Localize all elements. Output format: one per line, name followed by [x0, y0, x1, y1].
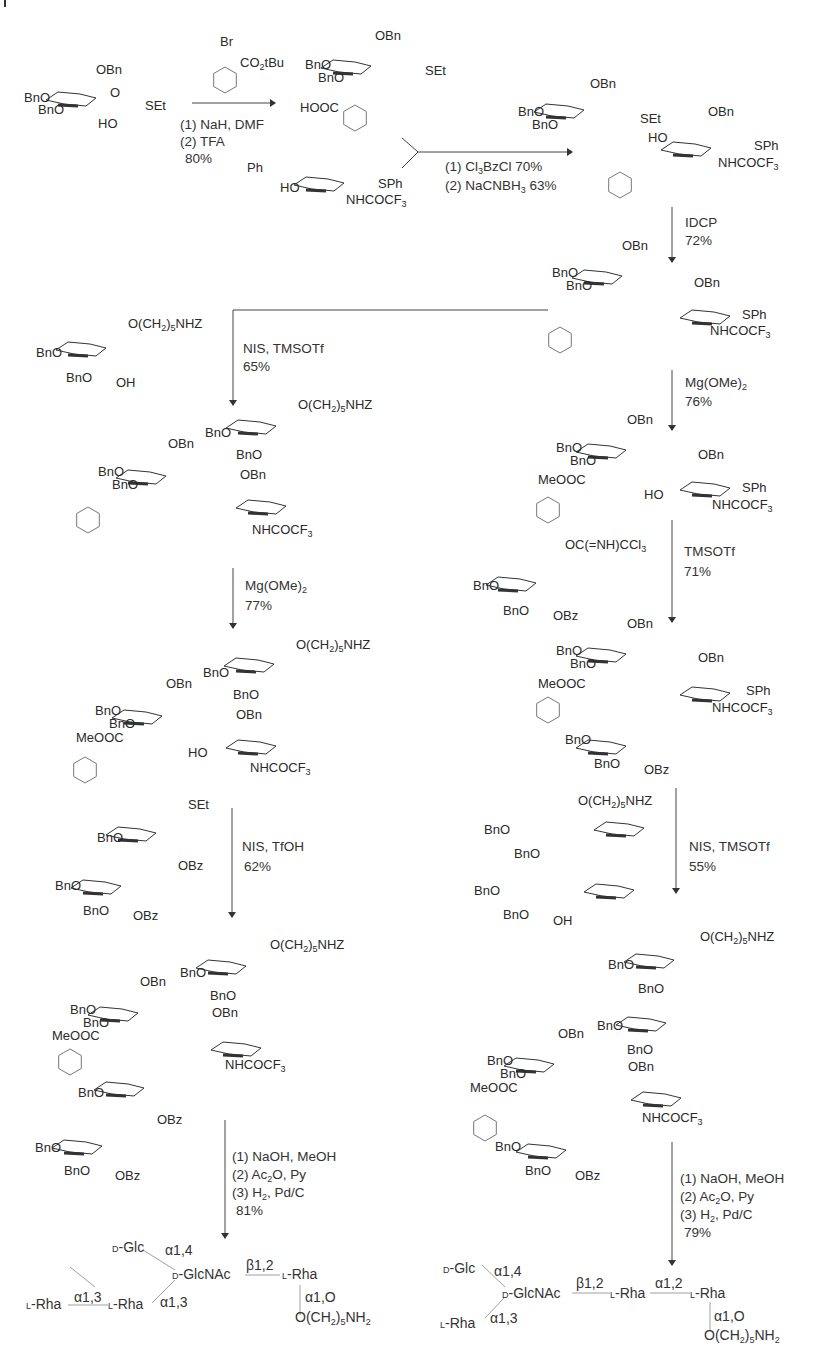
label-obn: OBn: [694, 275, 720, 290]
ring-bold-bond: [64, 1153, 84, 1154]
label-nhcocf3: NHCOCF3: [642, 1110, 703, 1125]
sugar-ring: [226, 420, 276, 434]
step5-right-yield: 71%: [684, 563, 711, 580]
glycan-left-link-a1o: α1,O: [305, 1290, 336, 1305]
label-sph: SPh: [742, 480, 767, 495]
label-obz: OBz: [553, 608, 578, 623]
label-linker: O(CH2)5NHZ: [296, 637, 370, 652]
final-left-yield: 81%: [236, 1202, 263, 1219]
benzene-ring: [59, 1049, 82, 1075]
ring-bold-bond: [643, 1105, 663, 1106]
label-obn: OBn: [627, 412, 653, 427]
label-bno: BnO: [236, 447, 262, 462]
sugar-ring: [594, 822, 644, 836]
label-nhcocf3: NHCOCF3: [252, 522, 313, 537]
glycan-left-d-glc: D-Glc: [112, 1240, 144, 1257]
glycan-right-link-b12: β1,2: [576, 1276, 604, 1291]
glycan-left-l-rha-b: L-Rha: [108, 1297, 143, 1314]
label-bno: BnO: [638, 981, 664, 996]
glycan-right-link-a1o: α1,O: [714, 1309, 745, 1324]
label-bno: BnO: [203, 665, 229, 680]
sugar-ring: [680, 310, 730, 324]
label-obn: OBn: [708, 104, 734, 119]
glycan-right-d-glcnac: D-GlcNAc: [502, 1286, 561, 1303]
label-obn: OBn: [375, 28, 401, 43]
label-set: SEt: [188, 797, 209, 812]
ring-bold-bond: [223, 1055, 243, 1056]
label-bno: BnO: [210, 988, 236, 1003]
label-bno: BnO: [503, 907, 529, 922]
label-bno: BnO: [594, 756, 620, 771]
label-meooc: MeOOC: [538, 472, 586, 487]
label-bno: BnO: [514, 846, 540, 861]
glycan-right-l-rha-b: L-Rha: [690, 1286, 725, 1303]
step1-line1: (1) NaH, DMF: [180, 116, 264, 133]
sugar-ring: [56, 342, 106, 356]
label-bno: BnO: [318, 70, 344, 85]
ring-bold-bond: [498, 590, 518, 591]
sugar-ring: [294, 177, 344, 191]
label-bno: BnO: [35, 1140, 61, 1155]
label-nhcocf3: NHCOCF3: [712, 700, 773, 715]
glycan-left-link-a13-a: α1,3: [74, 1290, 102, 1305]
step5-right-line1: TMSOTf: [684, 543, 735, 560]
label-linker: O(CH2)5NHZ: [270, 937, 344, 952]
sugar-ring: [236, 500, 286, 514]
glycan-left-linker: O(CH2)5NH2: [295, 1310, 371, 1325]
label-obn: OBn: [628, 1059, 654, 1074]
label-bno: BnO: [627, 1042, 653, 1057]
label-bno: BnO: [500, 1066, 526, 1081]
label-bno: BnO: [97, 830, 123, 845]
label-linker: O(CH2)5NHZ: [700, 929, 774, 944]
label-obz: OBz: [115, 1168, 140, 1183]
step4-right-yield: 76%: [685, 393, 712, 410]
label-nhcocf3: NHCOCF3: [225, 1057, 286, 1072]
step6-left-yield: 62%: [244, 858, 271, 875]
final-left-line3: (3) H2, Pd/C: [232, 1184, 305, 1201]
label-linker: O(CH2)5NHZ: [298, 397, 372, 412]
ring-bold-bond: [528, 1157, 548, 1158]
label-bno: BnO: [38, 102, 64, 117]
label-bno: BnO: [109, 716, 135, 731]
ring-bold-bond: [238, 753, 258, 754]
step1-yield: 80%: [185, 150, 212, 167]
glycan-right-linker: O(CH2)5NH2: [704, 1328, 780, 1343]
glycan-right-link-a12: α1,2: [655, 1276, 683, 1291]
label-bno: BnO: [64, 1163, 90, 1178]
label-obz: OBz: [644, 762, 669, 777]
glycan-left-l-rha-c: L-Rha: [26, 1297, 61, 1314]
sugar-ring: [584, 884, 634, 898]
label-bno: BnO: [473, 578, 499, 593]
final-right-yield: 79%: [684, 1224, 711, 1241]
final-right-line1: (1) NaOH, MeOH: [680, 1170, 784, 1187]
ring-bold-bond: [692, 323, 712, 324]
label-bno: BnO: [112, 477, 138, 492]
bond-right-glc-glcnac: [70, 1267, 95, 1287]
final-left-line2: (2) Ac2O, Py: [232, 1166, 306, 1183]
label-obn: OBn: [166, 676, 192, 691]
glycan-left-l-rha-a: L-Rha: [282, 1267, 317, 1284]
step4-left-line1: NIS, TMSOTf: [243, 340, 324, 357]
step1-line2: (2) TFA: [180, 133, 225, 150]
final-left-line1: (1) NaOH, MeOH: [232, 1148, 336, 1165]
glycan-right-d-glc: D-Glc: [443, 1261, 475, 1278]
label-set: SEt: [145, 98, 166, 113]
arrow-step2-merge-b: [402, 152, 418, 168]
label-nhcocf3: NHCOCF3: [346, 192, 407, 207]
benzene-ring: [344, 105, 367, 131]
step2-line2: (2) NaCNBH3 63%: [445, 177, 557, 194]
ring-bold-bond: [208, 973, 228, 974]
label-sph: SPh: [754, 138, 779, 153]
label-obn: OBn: [168, 436, 194, 451]
label-bno: BnO: [55, 878, 81, 893]
label-nhcocf3: NHCOCF3: [250, 760, 311, 775]
label-bno: BnO: [495, 1139, 521, 1154]
label-obn: OBn: [622, 238, 648, 253]
label-obz: OBz: [575, 1168, 600, 1183]
label-bno: BnO: [78, 1085, 104, 1100]
ring-bold-bond: [68, 355, 88, 356]
label-meooc: MeOOC: [470, 1080, 518, 1095]
label-bno: BnO: [36, 345, 62, 360]
ring-bold-bond: [236, 671, 256, 672]
label-ho: HO: [644, 487, 664, 502]
